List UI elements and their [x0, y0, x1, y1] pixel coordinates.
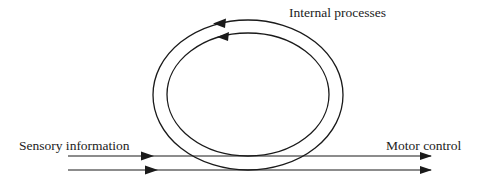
motor-control-label: Motor control: [386, 139, 461, 153]
loop-diagram: [0, 0, 486, 186]
inner-loop-arrow-icon: [217, 32, 229, 41]
outer-loop: [153, 20, 343, 170]
internal-processes-label: Internal processes: [289, 6, 386, 20]
sensory-information-label: Sensory information: [19, 139, 130, 153]
inner-loop: [167, 33, 329, 156]
outer-loop-arrow-icon: [213, 19, 226, 29]
lower-input-arrow-icon: [145, 166, 158, 175]
upper-input-arrow-icon: [141, 152, 154, 161]
